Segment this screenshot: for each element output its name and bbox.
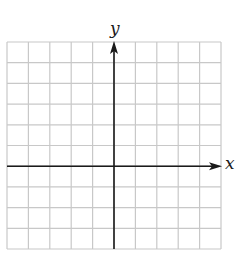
y-axis-label: y: [110, 20, 120, 37]
x-axis-label: x: [225, 155, 235, 172]
grid-svg: [0, 0, 237, 259]
coordinate-plane: y x: [0, 0, 237, 259]
